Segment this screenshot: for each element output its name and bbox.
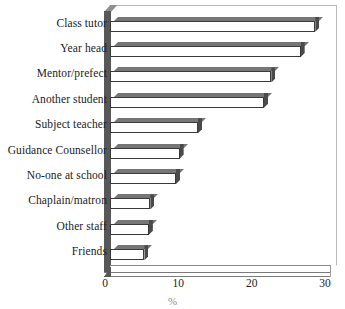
bar-side-face bbox=[150, 194, 154, 209]
bar-chart: Class tutorYear headMentor/prefectAnothe… bbox=[0, 0, 345, 309]
bar-side-face bbox=[315, 17, 319, 32]
bar-row: Subject teacher bbox=[0, 113, 345, 138]
bar-row: Chaplain/matron bbox=[0, 189, 345, 214]
x-axis-title: % bbox=[0, 296, 345, 307]
x-tick-label: 0 bbox=[102, 278, 108, 290]
bar-side-face bbox=[144, 245, 148, 260]
bar-side-face bbox=[180, 144, 184, 159]
category-label: Another student bbox=[32, 94, 107, 106]
x-tick-label: 20 bbox=[246, 278, 258, 290]
bar-side-face bbox=[271, 67, 275, 82]
bar-0 bbox=[110, 17, 319, 31]
bar-front-face bbox=[110, 97, 264, 108]
bar-row: No-one at school bbox=[0, 163, 345, 188]
bar-side-face bbox=[198, 118, 202, 133]
category-label: Friends bbox=[72, 246, 107, 258]
bar-front-face bbox=[110, 249, 144, 260]
x-tick-label: 30 bbox=[319, 278, 331, 290]
bar-front-face bbox=[110, 173, 176, 184]
chart-floor-face bbox=[104, 272, 331, 277]
category-label: Mentor/prefect bbox=[37, 69, 107, 81]
chart-floor-top bbox=[110, 265, 337, 272]
bar-6 bbox=[110, 169, 180, 183]
bar-side-face bbox=[176, 169, 180, 184]
bar-5 bbox=[110, 144, 184, 158]
bar-row: Friends bbox=[0, 240, 345, 265]
bar-row: Other staff bbox=[0, 214, 345, 239]
bar-front-face bbox=[110, 122, 198, 133]
bar-1 bbox=[110, 42, 305, 56]
category-label: No-one at school bbox=[27, 170, 107, 182]
bar-rows: Class tutorYear headMentor/prefectAnothe… bbox=[0, 11, 345, 265]
bar-3 bbox=[110, 93, 268, 107]
x-tick-label: 10 bbox=[173, 278, 185, 290]
x-axis-tick-labels: 0102030 bbox=[0, 278, 345, 292]
bar-row: Guidance Counsellor bbox=[0, 138, 345, 163]
bar-9 bbox=[110, 245, 148, 259]
bar-2 bbox=[110, 67, 275, 81]
bar-front-face bbox=[110, 46, 301, 57]
bar-row: Another student bbox=[0, 87, 345, 112]
bar-side-face bbox=[149, 220, 153, 235]
category-label: Subject teacher bbox=[35, 120, 107, 132]
bar-front-face bbox=[110, 224, 149, 235]
bar-front-face bbox=[110, 198, 150, 209]
bar-side-face bbox=[264, 93, 268, 108]
category-label: Chaplain/matron bbox=[28, 196, 107, 208]
bar-front-face bbox=[110, 148, 180, 159]
bar-front-face bbox=[110, 71, 271, 82]
bar-front-face bbox=[110, 21, 315, 32]
bar-row: Mentor/prefect bbox=[0, 62, 345, 87]
bar-row: Year head bbox=[0, 36, 345, 61]
bar-7 bbox=[110, 194, 154, 208]
category-label: Class tutor bbox=[56, 18, 107, 30]
bar-4 bbox=[110, 118, 202, 132]
category-label: Year head bbox=[60, 43, 107, 55]
bar-side-face bbox=[301, 42, 305, 57]
bar-row: Class tutor bbox=[0, 11, 345, 36]
category-label: Guidance Counsellor bbox=[8, 145, 107, 157]
category-label: Other staff bbox=[57, 221, 107, 233]
bar-8 bbox=[110, 220, 153, 234]
